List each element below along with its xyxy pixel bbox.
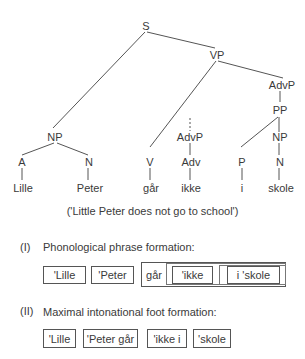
word-lille: Lille bbox=[13, 182, 33, 194]
foot-box-2: 'Peter går bbox=[83, 329, 138, 348]
node-np-subject: NP bbox=[47, 131, 62, 143]
word-peter: Peter bbox=[77, 182, 103, 194]
node-advp-top: AdvP bbox=[269, 79, 295, 91]
foot-box-3: 'ikke i bbox=[147, 329, 187, 348]
section-2-number: (II) bbox=[20, 305, 33, 317]
phrase-box-5: i 'skole bbox=[227, 266, 280, 284]
word-i: i bbox=[241, 182, 243, 194]
foot-box-1: 'Lille bbox=[43, 329, 76, 348]
node-p: P bbox=[238, 156, 245, 168]
translation-gloss: ('Little Peter does not go to school') bbox=[0, 205, 305, 217]
section-2-title: Maximal intonational foot formation: bbox=[43, 306, 217, 318]
node-adv: Adv bbox=[182, 156, 201, 168]
node-s: S bbox=[142, 20, 149, 32]
word-skole: skole bbox=[268, 182, 294, 194]
foot-box-4: 'skole bbox=[193, 329, 231, 348]
node-np-object: NP bbox=[272, 131, 287, 143]
phrase-box-1: 'Lille bbox=[43, 266, 86, 284]
node-vp: VP bbox=[210, 49, 225, 61]
node-v: V bbox=[146, 156, 153, 168]
word-gar: går bbox=[143, 182, 159, 194]
syntax-tree-lines bbox=[0, 0, 305, 200]
phrase-box-3: går bbox=[141, 262, 167, 287]
node-pp: PP bbox=[273, 104, 288, 116]
section-1-number: (I) bbox=[20, 241, 30, 253]
section-1-title: Phonological phrase formation: bbox=[43, 241, 195, 253]
phrase-box-2: 'Peter bbox=[91, 266, 134, 284]
node-n-subject: N bbox=[85, 156, 93, 168]
node-n-object: N bbox=[276, 156, 284, 168]
node-a: A bbox=[18, 156, 25, 168]
node-advp-mid: AdvP bbox=[177, 131, 203, 143]
phrase-box-4: 'ikke bbox=[172, 266, 213, 284]
word-ikke: ikke bbox=[181, 182, 201, 194]
